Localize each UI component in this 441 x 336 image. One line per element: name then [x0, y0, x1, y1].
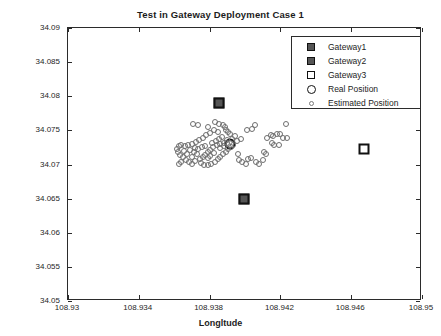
y-tick-label: 34.055	[0, 261, 60, 270]
x-axis-title: Longltude	[0, 318, 441, 328]
x-tick-mark	[280, 295, 281, 299]
estimated-position-marker	[205, 124, 211, 130]
x-tick-mark-top	[422, 28, 423, 32]
y-tick-mark	[68, 233, 72, 234]
x-tick-mark	[210, 295, 211, 299]
y-tick-label: 34.06	[0, 227, 60, 236]
x-tick-mark-top	[351, 28, 352, 32]
estimated-position-marker	[260, 157, 266, 163]
x-tick-label: 108.938	[194, 303, 223, 312]
open-square-icon-glyph	[307, 71, 315, 79]
y-tick-mark	[68, 28, 72, 29]
x-tick-mark	[422, 295, 423, 299]
bold-circle-icon-glyph	[307, 85, 316, 94]
legend-item-label: Gateway1	[321, 42, 366, 52]
estimated-position-marker	[181, 148, 187, 154]
y-tick-mark	[68, 62, 72, 63]
y-tick-mark	[68, 199, 72, 200]
legend-box[interactable]: Gateway1Gateway2Gateway3Real PositionEst…	[291, 36, 421, 109]
y-tick-mark	[68, 130, 72, 131]
page-title: Test in Gateway Deployment Case 1	[0, 9, 441, 20]
y-tick-mark-right	[416, 28, 420, 29]
x-tick-mark-top	[280, 28, 281, 32]
y-tick-mark-right	[416, 165, 420, 166]
x-tick-mark	[351, 295, 352, 299]
figure-canvas: Test in Gateway Deployment Case 1 Longlt…	[0, 0, 441, 336]
filled-square-icon	[301, 43, 321, 51]
y-tick-label: 34.08	[0, 91, 60, 100]
gateway-marker	[239, 193, 250, 204]
x-tick-mark-top	[210, 28, 211, 32]
estimated-position-marker	[243, 161, 249, 167]
legend-item[interactable]: Estimated Position	[292, 96, 420, 110]
legend-item-label: Estimated Position	[321, 98, 398, 108]
estimated-position-marker	[209, 140, 215, 146]
estimated-position-marker	[189, 154, 195, 160]
legend-item-label: Gateway2	[321, 56, 366, 66]
y-tick-label: 34.09	[0, 23, 60, 32]
y-tick-mark-right	[416, 301, 420, 302]
open-square-icon	[301, 71, 321, 79]
estimated-position-marker	[202, 143, 208, 149]
legend-item-label: Gateway3	[321, 70, 366, 80]
gateway-marker	[214, 98, 225, 109]
filled-square-icon-glyph	[307, 57, 315, 65]
y-tick-label: 34.085	[0, 57, 60, 66]
x-tick-mark-top	[139, 28, 140, 32]
legend-item[interactable]: Gateway3	[292, 68, 420, 82]
y-tick-label: 34.07	[0, 159, 60, 168]
y-tick-mark-right	[416, 199, 420, 200]
estimated-position-marker	[194, 151, 200, 157]
y-tick-mark	[68, 301, 72, 302]
y-tick-label: 34.05	[0, 296, 60, 305]
legend-item[interactable]: Real Position	[292, 82, 420, 96]
bold-circle-icon	[301, 85, 321, 94]
y-tick-label: 34.065	[0, 193, 60, 202]
y-tick-mark	[68, 165, 72, 166]
y-tick-mark-right	[416, 130, 420, 131]
filled-square-icon	[301, 57, 321, 65]
x-tick-label: 108.942	[265, 303, 294, 312]
x-tick-mark	[68, 295, 69, 299]
estimated-position-marker	[176, 161, 182, 167]
y-tick-mark-right	[416, 233, 420, 234]
estimated-position-marker	[261, 149, 267, 155]
estimated-position-marker	[195, 122, 201, 128]
y-tick-mark-right	[416, 267, 420, 268]
y-tick-mark	[68, 267, 72, 268]
estimated-position-marker	[211, 150, 217, 156]
x-tick-mark	[139, 295, 140, 299]
small-circle-icon-glyph	[309, 101, 314, 106]
estimated-position-marker	[276, 142, 282, 148]
estimated-position-marker	[238, 136, 244, 142]
estimated-position-marker	[252, 122, 258, 128]
x-tick-label: 108.934	[123, 303, 152, 312]
estimated-position-marker	[283, 121, 289, 127]
y-tick-label: 34.075	[0, 125, 60, 134]
legend-item[interactable]: Gateway1	[292, 40, 420, 54]
legend-item[interactable]: Gateway2	[292, 54, 420, 68]
small-circle-icon	[301, 101, 321, 106]
y-tick-mark	[68, 96, 72, 97]
gateway-marker	[358, 144, 369, 155]
filled-square-icon-glyph	[307, 43, 315, 51]
estimated-position-marker	[221, 143, 227, 149]
estimated-position-marker	[284, 135, 290, 141]
estimated-position-marker	[235, 151, 241, 157]
x-tick-label: 108.946	[336, 303, 365, 312]
x-tick-label: 108.95	[409, 303, 433, 312]
legend-item-label: Real Position	[321, 84, 378, 94]
